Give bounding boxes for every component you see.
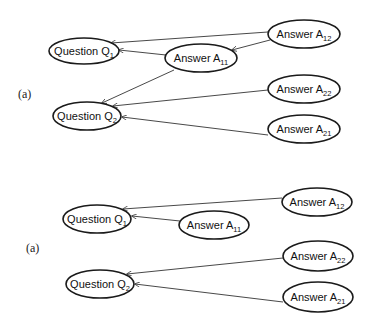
node-a21: Answer A21 [283, 282, 353, 312]
panel-0: (a)Question Q1Answer A11Answer A12Questi… [18, 20, 340, 143]
node-a11: Answer A11 [179, 211, 249, 239]
edge-a21-to-q2 [135, 284, 283, 302]
node-q2: Question Q2 [53, 102, 121, 130]
node-q1: Question Q1 [63, 205, 131, 233]
edge-a12-to-q1 [111, 32, 268, 43]
node-a12: Answer A12 [268, 20, 340, 48]
node-a21: Answer A21 [268, 115, 340, 143]
edge-a22-to-q2 [113, 90, 268, 106]
node-a22: Answer A22 [283, 241, 353, 271]
panel-1: (a)Question Q1Answer A11Answer A12Questi… [26, 188, 353, 312]
node-q2: Question Q2 [66, 270, 134, 298]
node-a11: Answer A11 [165, 44, 237, 72]
panel-label: (a) [26, 241, 39, 255]
edge-a22-to-q2 [127, 258, 283, 274]
node-a22: Answer A22 [268, 75, 340, 103]
edge-a21-to-q2 [122, 117, 268, 135]
panel-label: (a) [18, 87, 31, 101]
edge-a11-to-q1 [132, 216, 180, 221]
node-a12: Answer A12 [282, 188, 352, 216]
edge-a11-to-q1 [119, 50, 166, 55]
node-q1: Question Q1 [49, 38, 119, 64]
qa-graph-diagram: (a)Question Q1Answer A11Answer A12Questi… [0, 0, 374, 329]
edge-a11-to-q2 [102, 70, 174, 103]
edge-a12-to-a11 [232, 40, 270, 50]
edge-a12-to-q1 [123, 198, 282, 209]
